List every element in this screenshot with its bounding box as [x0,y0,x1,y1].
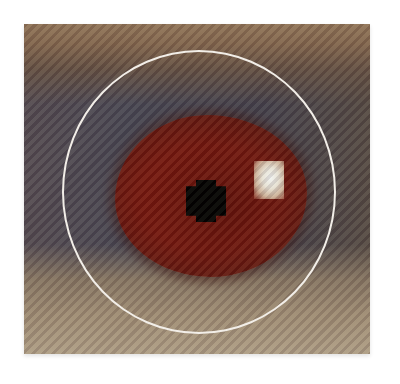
red-eye-photo [24,24,370,354]
highlight-circle [62,50,336,334]
